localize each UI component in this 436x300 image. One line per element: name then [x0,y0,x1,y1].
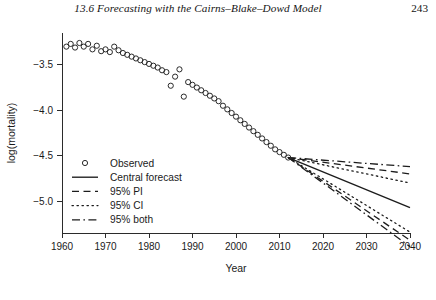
x-axis-ticks: 196019701980199020002010202020302040 [51,233,422,252]
observed-point [246,125,251,130]
observed-point [242,121,247,126]
observed-point [173,74,178,79]
x-tick-label: 1990 [181,241,204,252]
legend-label: 95% both [110,214,153,225]
observed-point [68,41,73,46]
y-tick-label: −4.0 [33,105,53,116]
observed-point [260,136,265,141]
legend-label: Central forecast [110,172,182,183]
legend-label: 95% PI [110,186,143,197]
observed-point [86,41,91,46]
observed-point [168,83,173,88]
x-tick-label: 2040 [399,241,422,252]
x-axis-title: Year [225,262,247,274]
observed-point [77,40,82,45]
legend-label: 95% CI [110,200,143,211]
observed-point [72,45,77,50]
legend-label: Observed [110,158,155,169]
x-tick-label: 2010 [268,241,291,252]
observed-point [181,94,186,99]
observed-point [238,118,243,123]
observed-point [251,129,256,134]
observed-point [264,139,269,144]
chart-legend: ObservedCentral forecast95% PI95% CI95% … [72,158,182,226]
x-tick-label: 2020 [312,241,335,252]
x-tick-label: 1980 [138,241,161,252]
page-number: 243 [411,2,428,14]
observed-point [94,43,99,48]
observed-point [229,110,234,115]
y-tick-label: −5.0 [33,196,53,207]
y-axis-title: log(mortality) [5,103,17,164]
observed-point [112,44,117,49]
forecast-chart-figure: 196019701980199020002010202020302040 −3.… [0,20,436,300]
observed-data-points [64,40,291,160]
x-tick-label: 1970 [94,241,117,252]
forecast-line [288,158,410,241]
forecast-line [288,158,410,233]
observed-point [164,69,169,74]
book-page: 13.6 Forecasting with the Cairns–Blake–D… [0,0,436,300]
x-tick-label: 1960 [51,241,74,252]
observed-point [216,99,221,104]
y-tick-label: −3.5 [33,59,53,70]
running-head-title: 13.6 Forecasting with the Cairns–Blake–D… [0,2,396,14]
y-axis-ticks: −3.5−4.0−4.5−5.0 [33,59,62,206]
observed-point [90,47,95,52]
observed-point [233,114,238,119]
legend-marker-observed [82,160,87,165]
running-head: 13.6 Forecasting with the Cairns–Blake–D… [0,2,436,20]
observed-point [220,103,225,108]
observed-point [268,143,273,148]
observed-point [107,49,112,54]
chart-canvas: 196019701980199020002010202020302040 −3.… [0,20,436,300]
observed-point [177,67,182,72]
x-tick-label: 2000 [225,241,248,252]
y-tick-label: −4.5 [33,150,53,161]
observed-point [255,132,260,137]
x-tick-label: 2030 [355,241,378,252]
observed-point [225,107,230,112]
